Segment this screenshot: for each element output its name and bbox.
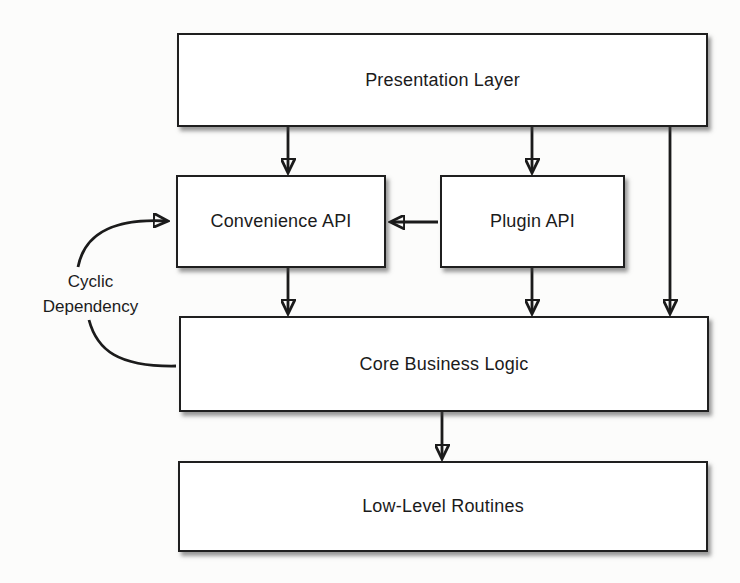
cyclic-dependency-label: Cyclic Dependency xyxy=(18,269,163,319)
node-convenience-api: Convenience API xyxy=(176,175,386,268)
node-presentation-layer-label: Presentation Layer xyxy=(365,70,520,91)
node-presentation-layer: Presentation Layer xyxy=(177,33,708,127)
architecture-diagram: Presentation Layer Convenience API Plugi… xyxy=(0,0,740,583)
node-plugin-api-label: Plugin API xyxy=(490,211,575,232)
node-core-business-logic-label: Core Business Logic xyxy=(360,354,529,375)
node-core-business-logic: Core Business Logic xyxy=(179,316,709,412)
cyclic-dependency-arrow-lower xyxy=(89,320,176,366)
node-plugin-api: Plugin API xyxy=(440,175,625,268)
node-low-level-routines-label: Low-Level Routines xyxy=(362,496,524,517)
cyclic-dependency-label-line2: Dependency xyxy=(18,294,163,319)
cyclic-dependency-arrow-upper xyxy=(78,221,166,267)
cyclic-dependency-label-line1: Cyclic xyxy=(18,269,163,294)
node-convenience-api-label: Convenience API xyxy=(210,211,351,232)
node-low-level-routines: Low-Level Routines xyxy=(178,461,708,552)
